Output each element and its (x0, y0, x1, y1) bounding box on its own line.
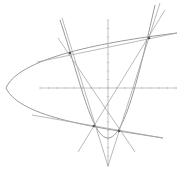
tangency-upper-left (69, 52, 72, 55)
v-right-line (108, 3, 160, 166)
tangency-lower-left (93, 125, 96, 128)
left-steep-tangent (58, 38, 135, 152)
tangency-points (69, 37, 151, 133)
parabola-curves (6, 5, 177, 138)
tangent-lines (32, 3, 177, 166)
v-left-line (62, 18, 108, 166)
parabola-tangent-diagram (0, 0, 184, 177)
tangency-upper-right (148, 37, 151, 40)
sideways-parabola (6, 33, 177, 138)
upper-tangent (37, 33, 177, 62)
upward-parabola (60, 5, 155, 138)
diagram-canvas (0, 0, 184, 177)
lower-tangent (32, 115, 163, 138)
tangency-lower-right (118, 130, 121, 133)
